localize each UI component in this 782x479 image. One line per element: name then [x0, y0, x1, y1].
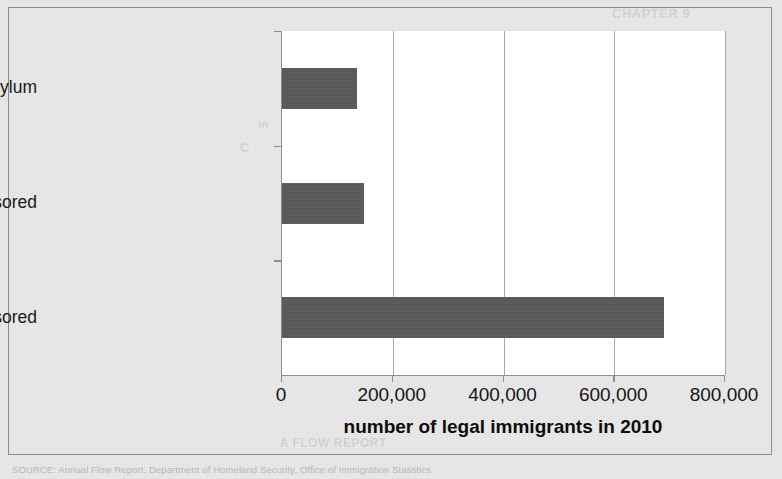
plot-area — [281, 31, 725, 375]
category-label: family sponsored — [0, 309, 37, 327]
x-axis-tick — [392, 375, 393, 382]
x-axis-tick — [281, 375, 282, 382]
x-tick-label: 400,000 — [468, 385, 537, 404]
x-tick-label: 0 — [276, 385, 287, 404]
x-axis-tick — [724, 375, 725, 382]
x-axis-tick — [503, 375, 504, 382]
figure-frame: family sponsoredemployment sponsoredrefu… — [8, 7, 772, 455]
y-axis-tick — [274, 31, 282, 32]
page-canvas: CHAPTER 9numbers of2010immigration to th… — [0, 0, 782, 479]
x-axis-tick — [613, 375, 614, 382]
gridline — [725, 31, 726, 375]
y-axis-tick — [274, 146, 282, 147]
bar — [282, 183, 364, 224]
x-tick-label: 200,000 — [357, 385, 426, 404]
category-label: employment sponsored — [0, 194, 37, 212]
x-tick-label: 800,000 — [690, 385, 759, 404]
y-axis-tick — [274, 260, 282, 261]
x-tick-label: 600,000 — [579, 385, 648, 404]
bar — [282, 297, 664, 338]
category-label: refugees/political asylum — [0, 79, 37, 97]
bar — [282, 68, 357, 109]
source-note: SOURCE: Annual Flow Report, Department o… — [12, 464, 431, 475]
bar-chart: family sponsoredemployment sponsoredrefu… — [9, 8, 773, 456]
x-axis-title: number of legal immigrants in 2010 — [281, 416, 725, 438]
